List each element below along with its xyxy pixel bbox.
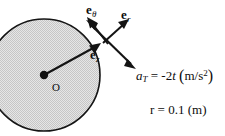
label-e-theta: eθ	[86, 3, 97, 19]
physics-diagram: eθ er ez O aT = -2t (m/s2) r = 0.1 (m)	[0, 0, 225, 136]
equation-tangential-acceleration: aT = -2t (m/s2)	[136, 68, 213, 84]
disk-shape	[0, 19, 100, 131]
origin-point	[40, 71, 48, 79]
label-origin: O	[52, 82, 60, 93]
label-e-z: ez	[90, 48, 100, 64]
label-e-r: er	[121, 8, 131, 24]
equation-radius: r = 0.1 (m)	[150, 103, 207, 116]
